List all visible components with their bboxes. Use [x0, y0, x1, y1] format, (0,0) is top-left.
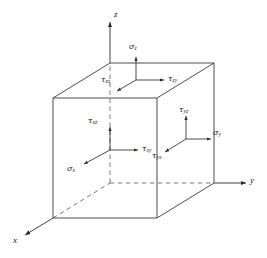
- cube-hidden-edges: [53, 63, 214, 218]
- stress-label-tau-yx: τyx: [152, 152, 161, 161]
- stress-label-tau-xz: τxz: [88, 117, 97, 126]
- stress-label-sigma-z: σz: [129, 43, 137, 52]
- axis-label-z: z: [114, 10, 118, 19]
- cube-front-face: [53, 98, 157, 218]
- tau-yz-subscript: yz: [183, 108, 188, 114]
- tau-zy-subscript: zy: [172, 77, 177, 83]
- stress-label-tau-zy: τzy: [168, 75, 177, 84]
- cube-top-face: [53, 63, 214, 98]
- top-face-arrows: [117, 57, 164, 91]
- stress-element-drawing: [0, 0, 267, 258]
- axis-label-y: y: [250, 176, 254, 185]
- right-face-arrows: [165, 116, 211, 152]
- stress-label-tau-yz: τyz: [179, 106, 188, 115]
- tau-zx-subscript: zx: [105, 78, 110, 84]
- tau-yx-subscript: yx: [156, 154, 161, 160]
- tau-xz-subscript: xz: [92, 119, 97, 125]
- sigma-x-subscript: x: [72, 167, 75, 173]
- cube-right-face: [157, 63, 214, 218]
- sigma-y-subscript: y: [218, 131, 221, 137]
- tau-xy-subscript: xy: [146, 147, 151, 153]
- axis-x-line: [25, 218, 53, 235]
- sigma-z-subscript: z: [134, 45, 136, 51]
- front-face-arrows: [84, 127, 138, 164]
- stress-label-sigma-x: σx: [67, 165, 75, 174]
- stress-label-tau-xy: τxy: [142, 145, 151, 154]
- axis-label-x: x: [13, 236, 17, 245]
- stress-label-tau-zx: τzx: [101, 76, 110, 85]
- stress-label-sigma-y: σy: [213, 129, 221, 138]
- stress-element-figure: z y x σz τzx τzy τxz τxy σx τyz σy τyx: [0, 0, 267, 258]
